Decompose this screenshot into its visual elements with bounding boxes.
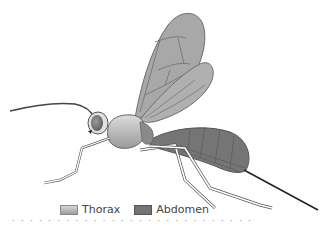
legend-label-abdomen: Abdomen <box>156 203 209 216</box>
abdomen <box>150 127 249 173</box>
antenna <box>10 103 94 118</box>
abdomen-swatch-icon <box>134 205 152 215</box>
legend-item-thorax: Thorax <box>60 203 120 216</box>
cropped-caption: · · · · · · · · · · · · · · · · · · · · … <box>12 217 322 225</box>
legend-item-abdomen: Abdomen <box>134 203 209 216</box>
wasp-diagram <box>0 0 325 225</box>
head <box>88 112 108 134</box>
thorax-swatch-icon <box>60 205 78 215</box>
legend-label-thorax: Thorax <box>82 203 120 216</box>
legend: Thorax Abdomen <box>60 203 209 216</box>
